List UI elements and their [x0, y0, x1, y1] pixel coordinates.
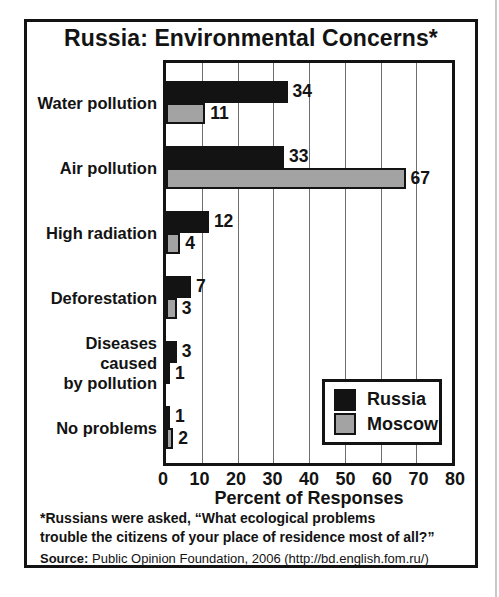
category-label: Water pollution — [29, 92, 157, 112]
bar-value-label: 3 — [182, 341, 192, 362]
bar-moscow — [166, 168, 406, 190]
x-axis-ticks: 01020304050607080 — [163, 469, 455, 489]
bar-value-label: 4 — [185, 233, 195, 254]
x-tick-label: 50 — [335, 469, 355, 490]
source-label: Source: — [40, 551, 88, 566]
x-tick-label: 40 — [299, 469, 319, 490]
bar-value-label: 1 — [175, 363, 185, 384]
category-row: Diseases caused by pollution31 — [166, 341, 452, 384]
bar-line: 12 — [166, 211, 452, 233]
plot-area: Water pollution3411Air pollution3367High… — [163, 60, 455, 466]
bar-moscow — [166, 103, 205, 125]
bar-line: 67 — [166, 168, 452, 190]
bar-value-label: 7 — [196, 276, 206, 297]
page-edge-line — [495, 0, 497, 597]
footnote: *Russians were asked, “What ecological p… — [40, 509, 464, 548]
legend-label: Russia — [367, 389, 426, 410]
x-tick-label: 10 — [189, 469, 209, 490]
legend-swatch-russia — [334, 389, 356, 411]
category-label: No problems — [29, 417, 157, 437]
bar-line: 7 — [166, 276, 452, 298]
legend-row: Moscow — [334, 413, 430, 435]
x-tick-label: 60 — [372, 469, 392, 490]
x-axis-title: Percent of Responses — [163, 488, 455, 509]
bar-value-label: 12 — [214, 211, 233, 232]
source-text: Public Opinion Foundation, 2006 (http://… — [88, 551, 428, 566]
scanned-page: Russia: Environmental Concerns* Water po… — [0, 0, 499, 597]
bar-russia — [166, 211, 209, 233]
category-label: High radiation — [29, 222, 157, 242]
chart-figure: Russia: Environmental Concerns* Water po… — [24, 19, 478, 568]
bar-moscow — [166, 298, 177, 320]
bar-line: 34 — [166, 81, 452, 103]
x-tick-label: 30 — [262, 469, 282, 490]
bar-russia — [166, 341, 177, 363]
bar-value-label: 33 — [289, 146, 308, 167]
bar-value-label: 67 — [411, 168, 430, 189]
category-row: Deforestation73 — [166, 276, 452, 319]
x-tick-label: 80 — [445, 469, 465, 490]
category-row: Air pollution3367 — [166, 146, 452, 189]
bar-moscow — [166, 233, 180, 255]
bar-line: 4 — [166, 233, 452, 255]
source-line: Source: Public Opinion Foundation, 2006 … — [40, 551, 464, 566]
bar-moscow — [166, 428, 173, 450]
legend-label: Moscow — [367, 414, 438, 435]
bar-line: 11 — [166, 103, 452, 125]
bar-value-label: 2 — [178, 428, 188, 449]
bar-value-label: 3 — [182, 298, 192, 319]
legend-swatch-moscow — [334, 413, 356, 435]
x-tick-label: 70 — [408, 469, 428, 490]
bar-russia — [166, 81, 288, 103]
category-row: High radiation124 — [166, 211, 452, 254]
x-tick-label: 20 — [226, 469, 246, 490]
category-label: Deforestation — [29, 287, 157, 307]
bar-value-label: 34 — [293, 81, 312, 102]
bar-russia — [166, 406, 170, 428]
bar-russia — [166, 146, 284, 168]
legend-row: Russia — [334, 389, 430, 411]
bar-line: 3 — [166, 341, 452, 363]
bar-line: 3 — [166, 298, 452, 320]
bar-value-label: 1 — [175, 406, 185, 427]
category-row: Water pollution3411 — [166, 81, 452, 124]
category-label: Diseases caused by pollution — [29, 332, 157, 392]
category-label: Air pollution — [29, 157, 157, 177]
bar-moscow — [166, 363, 170, 385]
chart-title: Russia: Environmental Concerns* — [27, 25, 475, 52]
x-tick-label: 0 — [158, 469, 168, 490]
bar-line: 33 — [166, 146, 452, 168]
legend: RussiaMoscow — [322, 379, 442, 445]
bar-value-label: 11 — [210, 103, 229, 124]
bar-russia — [166, 276, 191, 298]
